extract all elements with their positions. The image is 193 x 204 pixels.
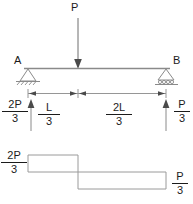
pin-support-left	[16, 69, 40, 85]
reaction-left-label: 2P 3	[2, 99, 28, 124]
dimension-right-numerator: 2L	[106, 102, 132, 113]
shear-negative-denominator: 3	[172, 185, 188, 196]
roller-support-right	[155, 69, 178, 85]
dimension-right-denominator: 3	[106, 116, 132, 127]
reaction-right-numerator: P	[174, 99, 190, 110]
dimension-left-denominator: 3	[38, 116, 60, 127]
shear-negative-label: P 3	[172, 171, 188, 196]
shear-force-diagram	[28, 155, 166, 189]
reaction-left-denominator: 3	[2, 113, 28, 124]
shear-positive-numerator: 2P	[1, 150, 27, 161]
shear-positive-denominator: 3	[1, 164, 27, 175]
support-label-b: B	[173, 55, 180, 66]
reaction-arrow-right	[163, 99, 170, 131]
reaction-right-denominator: 3	[174, 113, 190, 124]
dimension-left-numerator: L	[38, 102, 60, 113]
reaction-arrow-left	[28, 99, 35, 131]
point-load-label: P	[71, 2, 78, 13]
support-label-a: A	[14, 55, 21, 66]
reaction-left-numerator: 2P	[2, 99, 28, 110]
reaction-right-label: P 3	[174, 99, 190, 124]
dimension-line	[28, 89, 166, 98]
shear-negative-numerator: P	[172, 171, 188, 182]
figure-canvas	[0, 0, 193, 204]
dimension-right-label: 2L 3	[106, 102, 132, 127]
shear-positive-label: 2P 3	[1, 150, 27, 175]
point-load-arrow	[74, 18, 82, 69]
beam-shear-figure: P A B 2P 3 L 3 2L 3 P 3 2P 3 P 3	[0, 0, 193, 204]
dimension-left-label: L 3	[38, 102, 60, 127]
